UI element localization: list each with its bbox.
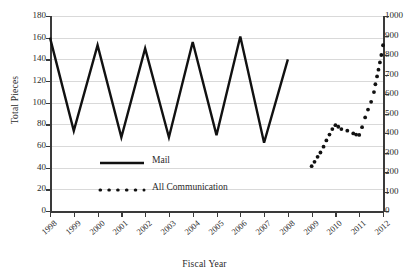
legend-key-all-communication bbox=[100, 187, 144, 193]
y-axis-left-tick-label: 80 bbox=[16, 118, 46, 128]
y-axis-left-tick-label: 120 bbox=[16, 75, 46, 85]
y-axis-right-tick-mark bbox=[385, 75, 389, 76]
x-axis-tick-mark bbox=[193, 213, 194, 217]
chart-figure: Total Pieces Fiscal Year 020406080100120… bbox=[0, 0, 409, 280]
y-axis-right-tick-label: 300 bbox=[385, 147, 409, 157]
y-axis-right-tick-mark bbox=[385, 192, 389, 193]
legend-key-mail bbox=[100, 160, 144, 166]
series-point bbox=[328, 133, 332, 137]
y-axis-right-tick-mark bbox=[385, 133, 389, 134]
x-axis-tick-mark bbox=[169, 213, 170, 217]
series-point bbox=[330, 127, 334, 131]
series-point bbox=[372, 90, 376, 94]
x-axis-tick-mark bbox=[335, 213, 336, 217]
y-axis-right-tick-mark bbox=[385, 55, 389, 56]
series-point bbox=[360, 125, 364, 129]
series-point bbox=[319, 151, 323, 155]
y-axis-right-tick-label: 100 bbox=[385, 186, 409, 196]
series-mail-line bbox=[50, 37, 288, 143]
series-point bbox=[369, 100, 373, 104]
series-point bbox=[345, 129, 349, 133]
y-axis-right-tick-label: 1000 bbox=[385, 10, 409, 20]
series-point bbox=[316, 155, 320, 159]
y-axis-right-tick-mark bbox=[385, 153, 389, 154]
y-axis-left-tick-label: 160 bbox=[16, 32, 46, 42]
x-axis-tick-mark bbox=[240, 213, 241, 217]
y-axis-right-tick-label: 0 bbox=[385, 205, 409, 215]
x-axis-tick-mark bbox=[288, 213, 289, 217]
x-axis-tick-mark bbox=[121, 213, 122, 217]
y-axis-left-tick-label: 60 bbox=[16, 140, 46, 150]
y-axis-left-tick-label: 140 bbox=[16, 53, 46, 63]
y-axis-right-tick-label: 500 bbox=[385, 108, 409, 118]
y-axis-right-tick-mark bbox=[385, 36, 389, 37]
y-axis-right-tick-label: 200 bbox=[385, 166, 409, 176]
y-axis-right-tick-label: 700 bbox=[385, 69, 409, 79]
series-point bbox=[324, 139, 328, 143]
series-all-communication-dots bbox=[310, 43, 385, 168]
y-axis-left-tick-label: 0 bbox=[16, 205, 46, 215]
series-point bbox=[375, 75, 379, 79]
x-axis-tick-mark bbox=[383, 213, 384, 217]
series-point bbox=[363, 116, 367, 120]
y-axis-right-tick-mark bbox=[385, 94, 389, 95]
series-point bbox=[373, 82, 377, 86]
y-axis-right-tick-mark bbox=[385, 114, 389, 115]
x-axis-tick-mark bbox=[359, 213, 360, 217]
legend-label-mail: Mail bbox=[152, 155, 170, 165]
x-axis-tick-mark bbox=[217, 213, 218, 217]
series-point bbox=[322, 145, 326, 149]
y-axis-left-tick-label: 20 bbox=[16, 183, 46, 193]
series-point bbox=[377, 68, 381, 72]
y-axis-right-tick-label: 400 bbox=[385, 127, 409, 137]
y-axis-right-tick-label: 800 bbox=[385, 49, 409, 59]
x-axis-tick-mark bbox=[264, 213, 265, 217]
y-axis-right-tick-mark bbox=[385, 172, 389, 173]
series-point bbox=[336, 125, 340, 129]
y-axis-right-tick-mark bbox=[385, 211, 389, 212]
x-axis-tick-mark bbox=[312, 213, 313, 217]
y-axis-right-tick-label: 900 bbox=[385, 30, 409, 40]
y-axis-right-tick-label: 600 bbox=[385, 88, 409, 98]
x-axis-tick-mark bbox=[98, 213, 99, 217]
series-point bbox=[339, 127, 343, 131]
series-point bbox=[313, 160, 317, 164]
x-axis-title: Fiscal Year bbox=[0, 259, 409, 269]
y-axis-left-tick-label: 100 bbox=[16, 97, 46, 107]
x-axis-tick-mark bbox=[50, 213, 51, 217]
series-point bbox=[310, 164, 314, 168]
x-axis-tick-mark bbox=[145, 213, 146, 217]
x-axis-tick-mark bbox=[74, 213, 75, 217]
series-point bbox=[379, 53, 383, 57]
y-axis-right-tick-mark bbox=[385, 16, 389, 17]
y-axis-left-tick-label: 180 bbox=[16, 10, 46, 20]
series-point bbox=[366, 108, 370, 112]
y-axis-left-tick-label: 40 bbox=[16, 162, 46, 172]
legend-label-all-communication: All Communication bbox=[152, 182, 228, 192]
series-point bbox=[357, 133, 361, 137]
series-point bbox=[381, 43, 385, 47]
series-point bbox=[378, 61, 382, 65]
